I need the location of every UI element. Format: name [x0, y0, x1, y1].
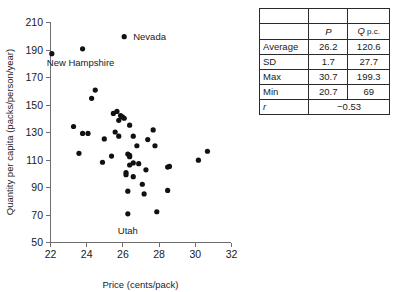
x-tick-label: 32: [226, 248, 238, 260]
data-point: [165, 188, 170, 193]
data-point: [151, 127, 156, 132]
row-value-min-q: 69: [348, 85, 390, 100]
data-point: [134, 143, 139, 148]
data-point: [131, 134, 136, 139]
row-label-max: Max: [260, 70, 309, 85]
data-point: [102, 136, 107, 141]
data-point: [127, 154, 132, 159]
table-row: SD 1.7 27.7: [260, 55, 390, 70]
y-tick-label: 150: [25, 99, 43, 111]
row-value-max-q: 199.3: [348, 70, 390, 85]
y-axis-title: Quantity per capita (packs/person/year): [4, 49, 15, 215]
row-value-min-p: 20.7: [309, 85, 348, 100]
data-point: [116, 134, 121, 139]
x-tick-label: 22: [45, 248, 57, 260]
data-point: [71, 124, 76, 129]
table-row-correlation: r −0.53: [260, 100, 390, 115]
data-point: [80, 46, 85, 51]
scatter-plot-panel: 507090110130150170190210222426283032Neva…: [0, 0, 240, 292]
table-row: Min 20.7 69: [260, 85, 390, 100]
table-spacer-row: [260, 9, 390, 24]
row-value-average-q: 120.6: [348, 40, 390, 55]
data-point: [196, 158, 201, 163]
row-value-sd-q: 27.7: [348, 55, 390, 70]
y-tick-label: 70: [31, 209, 43, 221]
data-point: [85, 131, 90, 136]
table-spacer-cell-p: [309, 9, 348, 24]
data-point: [109, 153, 114, 158]
x-tick-label: 28: [153, 248, 165, 260]
data-point: [127, 123, 132, 128]
table-spacer-cell-q: [348, 9, 390, 24]
data-point: [136, 161, 141, 166]
data-point: [154, 209, 159, 214]
point-annotation: Nevada: [133, 31, 166, 42]
row-label-min: Min: [260, 85, 309, 100]
data-point: [145, 137, 150, 142]
data-point: [142, 191, 147, 196]
point-annotation: Utah: [118, 225, 138, 236]
summary-statistics-table: P Q p.c. Average 26.2 120.6 SD 1.7 27.7 …: [259, 8, 390, 115]
row-label-sd: SD: [260, 55, 309, 70]
data-point: [80, 131, 85, 136]
data-point: [122, 116, 127, 121]
x-axis-title: Price (cents/pack): [102, 279, 178, 290]
row-value-max-p: 30.7: [309, 70, 348, 85]
row-label-average: Average: [260, 40, 309, 55]
row-value-average-p: 26.2: [309, 40, 348, 55]
data-point: [113, 129, 118, 134]
data-point: [205, 149, 210, 154]
y-tick-label: 110: [26, 154, 43, 166]
data-point: [127, 162, 132, 167]
table-row: Average 26.2 120.6: [260, 40, 390, 55]
table-header-p: P: [309, 24, 348, 40]
table-header-row: P Q p.c.: [260, 24, 390, 40]
point-annotation: New Hampshire: [47, 57, 115, 68]
data-point: [116, 118, 121, 123]
data-point: [49, 51, 54, 56]
table-spacer-cell-label: [260, 9, 309, 24]
y-tick-label: 130: [25, 126, 43, 138]
data-point: [76, 151, 81, 156]
data-point: [125, 211, 130, 216]
data-point: [131, 174, 136, 179]
data-point: [123, 172, 128, 177]
y-tick-label: 190: [25, 44, 43, 56]
data-point: [167, 164, 172, 169]
table-header-q-symbol: Q: [357, 25, 364, 36]
data-point: [114, 109, 119, 114]
axis-lines: [51, 22, 232, 243]
row-value-correlation: −0.53: [309, 100, 390, 115]
data-point: [122, 34, 127, 39]
table-header-q-suffix: p.c.: [365, 27, 380, 36]
data-point: [89, 96, 94, 101]
data-point: [93, 87, 98, 92]
data-point: [100, 160, 105, 165]
table-row: Max 30.7 199.3: [260, 70, 390, 85]
data-point: [143, 167, 148, 172]
data-point: [152, 143, 157, 148]
data-point: [140, 182, 145, 187]
row-label-correlation: r: [260, 100, 309, 115]
x-tick-label: 26: [117, 248, 129, 260]
y-tick-label: 90: [31, 181, 43, 193]
table-header-blank: [260, 24, 309, 40]
y-tick-label: 210: [25, 16, 43, 28]
y-tick-label: 50: [31, 236, 43, 248]
table-header-q: Q p.c.: [348, 24, 390, 40]
x-tick-label: 30: [189, 248, 201, 260]
row-value-sd-p: 1.7: [309, 55, 348, 70]
y-tick-label: 170: [25, 71, 43, 83]
data-point: [125, 189, 130, 194]
scatter-plot-svg: 507090110130150170190210222426283032Neva…: [0, 0, 240, 292]
x-tick-label: 24: [81, 248, 93, 260]
